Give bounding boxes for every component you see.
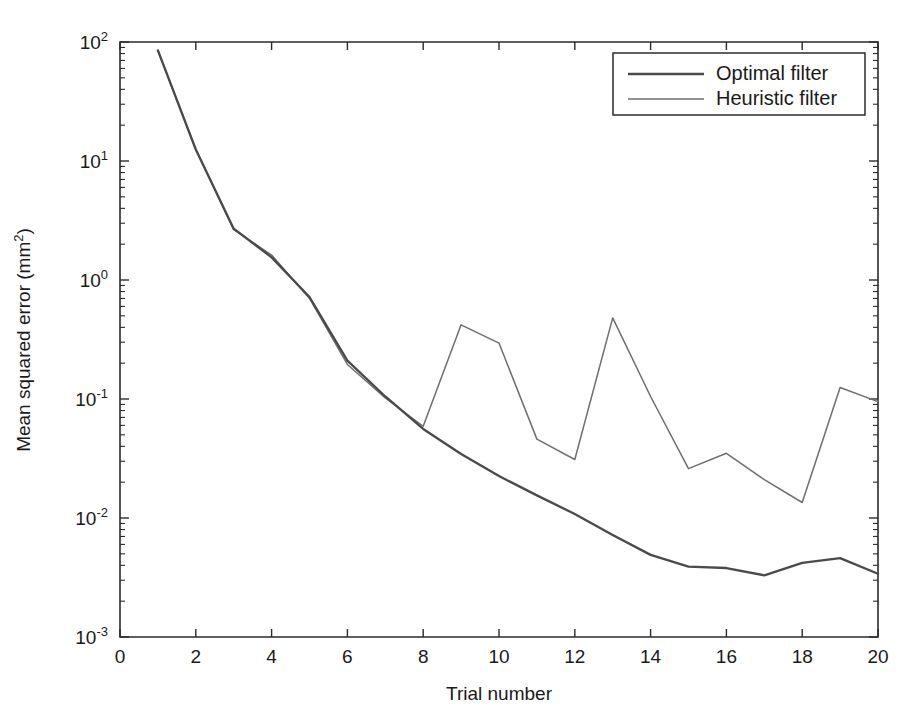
axis-frame [120,42,878,637]
y-axis-title-superscript: 2 [11,234,26,241]
x-tick-label-12: 12 [564,646,585,667]
legend[interactable]: Optimal filter Heuristic filter [613,53,865,115]
series-line-optimal-filter [158,50,878,575]
y-tick-label-0: 100 [80,267,108,291]
x-tick-label-14: 14 [640,646,662,667]
y-tick-label--2: 10-2 [75,505,108,529]
legend-label-optimal-filter[interactable]: Optimal filter [716,62,829,84]
y-tick-label-1: 101 [80,148,108,172]
x-axis-top-ticks [120,42,878,50]
y-tick-label-exponent: 0 [101,267,108,282]
series-line-heuristic-filter [158,50,878,502]
y-tick-label--1: 10-1 [75,386,108,410]
y-tick-label-base: 10 [80,151,101,172]
x-tick-label-8: 8 [418,646,429,667]
y-tick-label-base: 10 [75,508,96,529]
y-tick-label-exponent: -2 [96,505,108,520]
y-tick-label-base: 10 [80,32,101,53]
chart-figure: 02468101214161820 10-310-210-1100101102 … [0,0,911,711]
x-axis-ticks [120,629,878,637]
data-series-group [158,50,878,575]
y-axis-tick-labels: 10-310-210-1100101102 [75,29,108,648]
y-tick-label--3: 10-3 [75,624,108,648]
x-tick-label-16: 16 [716,646,737,667]
y-tick-label-base: 10 [75,389,96,410]
x-tick-label-18: 18 [792,646,813,667]
y-tick-label-exponent: -3 [96,624,108,639]
x-axis-tick-labels: 02468101214161820 [115,646,889,667]
y-tick-label-base: 10 [75,627,96,648]
y-axis-right-ticks [869,42,878,637]
y-axis-ticks [120,42,129,637]
x-axis-title: Trial number [446,683,553,704]
y-tick-label-2: 102 [80,29,108,53]
x-tick-label-4: 4 [266,646,277,667]
x-tick-label-2: 2 [191,646,202,667]
x-tick-label-0: 0 [115,646,126,667]
y-axis-minor-ticks [120,47,878,601]
chart-canvas: 02468101214161820 10-310-210-1100101102 … [0,0,911,711]
x-tick-label-10: 10 [488,646,509,667]
y-tick-label-base: 10 [80,270,101,291]
y-axis-title-tail: ) [13,228,34,234]
y-axis-title: Mean squared error (mm2) [11,228,34,452]
x-tick-label-6: 6 [342,646,353,667]
y-tick-label-exponent: 1 [101,148,108,163]
x-tick-label-20: 20 [867,646,888,667]
y-tick-label-exponent: 2 [101,29,108,44]
y-tick-label-exponent: -1 [96,386,108,401]
plot-frame [120,42,878,637]
legend-label-heuristic-filter[interactable]: Heuristic filter [716,87,837,109]
y-axis-title-main: Mean squared error (mm [13,242,34,452]
y-axis-title-group: Mean squared error (mm2) [11,228,34,452]
